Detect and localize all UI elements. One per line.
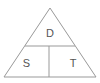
formula-triangle-diagram: D S T	[0, 0, 100, 83]
triangle-cell-label-bottom-left: S	[4, 58, 49, 69]
triangle-cell-label-top: D	[0, 28, 100, 39]
triangle-cell-label-bottom-right: T	[50, 58, 96, 69]
triangle-outline	[0, 0, 100, 83]
